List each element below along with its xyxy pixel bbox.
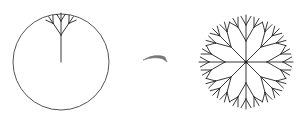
tree-trunk: [231, 62, 246, 77]
tree-branch: [238, 27, 246, 41]
tree-branch: [246, 83, 254, 97]
tree-branch: [206, 78, 216, 81]
right-figure-snowflake: [199, 15, 293, 109]
center-node: [244, 60, 247, 63]
tree-branch: [276, 78, 286, 81]
tree-branch: [61, 23, 69, 35]
tree-branch: [262, 92, 265, 102]
snowflake-spoke: [246, 62, 286, 102]
snowflake-spoke: [206, 22, 246, 62]
tree-branch: [238, 83, 246, 97]
tree-branch: [61, 14, 65, 21]
tree-branch: [246, 16, 251, 25]
tree-branch: [283, 62, 292, 67]
snowflake-spoke: [206, 62, 246, 102]
transform-arrow-icon: [143, 56, 167, 62]
tree-branch: [276, 43, 286, 46]
tree-branch: [246, 27, 254, 41]
tree-branch: [227, 92, 230, 102]
tree-branch: [267, 62, 281, 70]
tree-branch: [246, 99, 251, 108]
left-figure: [13, 13, 109, 110]
figure-canvas: [0, 0, 305, 125]
tree-trunk: [246, 47, 261, 62]
snowflake-spoke: [246, 45, 293, 78]
snowflake-spoke: [246, 22, 286, 62]
snowflake-spoke: [229, 62, 262, 109]
tree-branch: [53, 23, 61, 35]
tree-branch: [267, 54, 281, 62]
tree-branch: [262, 22, 265, 32]
tree-branch: [206, 43, 216, 46]
tree-branch: [241, 16, 246, 25]
snowflake-spoke: [199, 45, 246, 78]
tree-branch: [57, 14, 61, 21]
arrow-curve: [143, 56, 167, 62]
tree-branch: [227, 22, 230, 32]
tree-trunk: [231, 47, 246, 62]
tree-branch: [241, 99, 246, 108]
tree-trunk: [246, 62, 261, 77]
tree-branch: [211, 54, 225, 62]
fractal-tree: [46, 13, 76, 62]
snowflake-spoke: [229, 15, 262, 62]
tree-branch: [200, 62, 209, 67]
tree-branch: [283, 57, 292, 62]
tree-branch: [200, 57, 209, 62]
tree-branch: [211, 62, 225, 70]
